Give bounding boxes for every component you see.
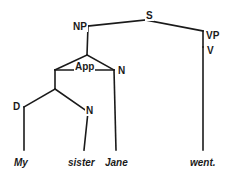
edge-innernp-n xyxy=(55,89,88,112)
node-label-vp: VP xyxy=(205,31,220,41)
node-label-n-outer: N xyxy=(117,66,126,76)
node-label-d: D xyxy=(12,102,21,112)
syntax-tree-diagram: S NP VP V App N D N My sister Jane went. xyxy=(0,0,232,180)
word-sister: sister xyxy=(68,158,95,168)
edge-s-np xyxy=(88,20,146,26)
word-my: My xyxy=(14,158,28,168)
edge-n-sister xyxy=(84,112,88,150)
word-jane: Jane xyxy=(105,158,128,168)
tree-edges-layer xyxy=(0,0,232,180)
node-label-v: V xyxy=(206,46,215,56)
word-went: went. xyxy=(190,158,216,168)
node-label-np: NP xyxy=(72,22,88,32)
edge-innernp-d xyxy=(24,89,55,107)
edge-nouter-jane xyxy=(114,70,116,150)
node-label-app: App xyxy=(74,62,95,72)
node-label-s: S xyxy=(145,11,154,21)
node-label-n-inner: N xyxy=(85,106,94,116)
edge-s-vp xyxy=(146,20,203,31)
